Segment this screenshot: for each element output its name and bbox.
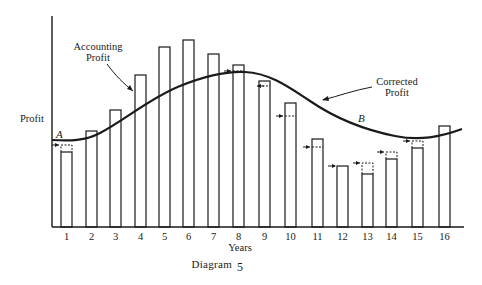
x-tick-label: 14 <box>386 231 397 242</box>
corrected-profit-label-line2: Profit <box>385 87 409 98</box>
accounting-profit-bar <box>159 47 170 227</box>
x-tick-label: 5 <box>162 231 167 242</box>
arrowhead-icon <box>55 143 59 147</box>
arrowhead-icon <box>380 150 384 154</box>
accounting-profit-bar <box>135 75 146 227</box>
accounting-profit-bar <box>337 166 348 227</box>
accounting-profit-bar <box>312 139 323 227</box>
caption-number: 5 <box>237 260 243 274</box>
arrowhead-icon <box>322 96 329 101</box>
x-tick-label: 11 <box>312 231 322 242</box>
point-b-label: B <box>358 112 365 124</box>
point-a-label: A <box>55 128 63 140</box>
x-tick-label: 15 <box>412 231 423 242</box>
accounting-profit-bar <box>86 131 97 227</box>
x-axis-label: Years <box>228 242 251 253</box>
arrowhead-icon <box>406 139 410 143</box>
corrected-profit-extension <box>386 152 397 159</box>
x-tick-label: 1 <box>64 231 69 242</box>
arrowhead-icon <box>306 145 310 149</box>
accounting-profit-bar <box>259 81 270 227</box>
corrected-profit-extension <box>412 141 423 148</box>
arrowhead-icon <box>127 85 133 91</box>
accounting-profit-bar <box>208 54 219 227</box>
x-tick-label: 6 <box>186 231 191 242</box>
arrowhead-icon <box>356 161 360 165</box>
arrowhead-icon <box>279 114 283 118</box>
corrected-profit-extension <box>61 145 72 152</box>
accounting-profit-bar <box>412 148 423 227</box>
accounting-profit-bar <box>61 152 72 227</box>
accounting-profit-bar <box>362 174 373 227</box>
corrected-profit-extension <box>362 163 373 174</box>
x-tick-label: 4 <box>138 231 144 242</box>
x-tick-label: 3 <box>113 231 118 242</box>
corrected-profit-label-line1: Corrected <box>376 76 418 87</box>
x-tick-label: 9 <box>262 231 267 242</box>
y-axis-label: Profit <box>20 113 44 124</box>
correction-adjustments <box>52 69 423 174</box>
x-tick-label: 2 <box>89 231 94 242</box>
accounting-profit-bar <box>439 126 450 227</box>
profit-chart: Accounting Profit Corrected Profit Profi… <box>0 0 482 285</box>
accounting-profit-label-line1: Accounting <box>74 41 124 52</box>
corrected-profit-arrow <box>323 87 372 100</box>
accounting-profit-label-line2: Profit <box>86 52 110 63</box>
x-tick-label: 13 <box>362 231 373 242</box>
arrowhead-icon <box>332 164 336 168</box>
x-tick-label: 16 <box>439 231 450 242</box>
caption-word: Diagram <box>191 258 232 270</box>
x-tick-label: 12 <box>337 231 348 242</box>
accounting-profit-bar <box>183 40 194 227</box>
x-tick-label: 7 <box>211 231 216 242</box>
x-tick-label: 8 <box>236 231 241 242</box>
accounting-profit-bar <box>386 159 397 227</box>
x-tick-labels: 12345678910111213141516 <box>64 231 450 242</box>
x-tick-label: 10 <box>285 231 296 242</box>
accounting-profit-bars <box>61 40 450 227</box>
accounting-profit-bar <box>285 103 296 227</box>
accounting-profit-bar <box>233 65 244 227</box>
